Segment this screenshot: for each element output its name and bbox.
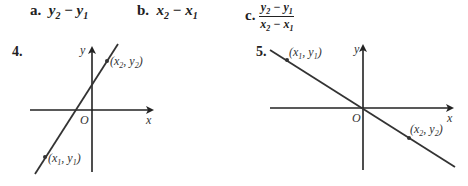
figure-4: 4. y x O (x2, y2) (x1, y1) xyxy=(12,43,152,174)
graphs-canvas: 4. y x O (x2, y2) (x1, y1) 5. y x O (x1,… xyxy=(0,0,468,186)
point-2-label: (x2, y2) xyxy=(410,122,443,138)
point-1-label: (x1, y1) xyxy=(48,151,81,167)
point-1 xyxy=(43,155,47,159)
point-2 xyxy=(105,59,109,63)
figure-5: 5. y x O (x1, y1) (x2, y2) xyxy=(256,42,455,170)
figure-number: 5. xyxy=(256,44,267,59)
x-axis-label: x xyxy=(446,111,453,125)
point-2 xyxy=(407,136,411,140)
point-2-label: (x2, y2) xyxy=(110,54,143,70)
point-1-label: (x1, y1) xyxy=(289,45,322,61)
figure-number: 4. xyxy=(12,44,23,59)
x-axis-label: x xyxy=(145,113,152,127)
y-axis-label: y xyxy=(79,43,86,57)
origin-label: O xyxy=(352,111,361,125)
origin-label: O xyxy=(80,113,89,127)
y-axis-label: y xyxy=(353,42,360,56)
